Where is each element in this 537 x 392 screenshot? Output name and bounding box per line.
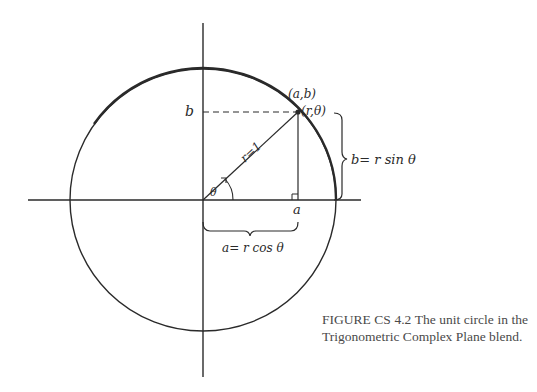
b-formula-label: b= r sin θ	[351, 152, 416, 167]
right-angle-marker	[292, 194, 298, 200]
b-axis-label: b	[185, 103, 194, 119]
a-formula-label: a= r cos θ	[222, 241, 284, 255]
point-dot	[295, 109, 300, 114]
caption-line-2: Trigonometric Complex Plane blend.	[322, 328, 528, 345]
a-axis-label: a	[293, 202, 301, 217]
a-brace	[203, 222, 298, 236]
point-polar-label: (r,θ)	[301, 104, 326, 118]
point-cartesian-label: (a,b)	[288, 87, 316, 101]
angle-label: θ	[210, 186, 217, 199]
caption-line-1: FIGURE CS 4.2 The unit circle in the	[322, 311, 528, 328]
figure-caption: FIGURE CS 4.2 The unit circle in the Tri…	[322, 311, 528, 345]
radius-label: r=1	[237, 139, 264, 165]
